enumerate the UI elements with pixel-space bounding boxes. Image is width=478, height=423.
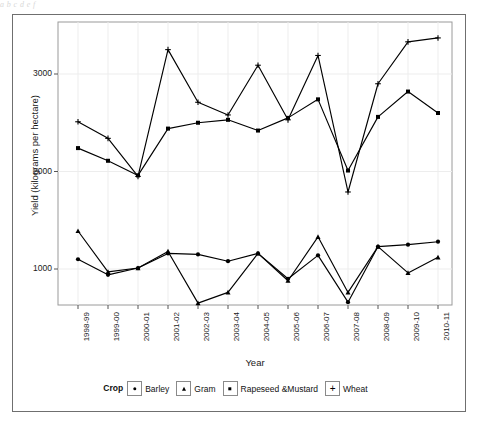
data-point-square xyxy=(76,146,80,150)
data-point-square xyxy=(106,159,110,163)
y-axis-tick-label: 1000 xyxy=(18,263,52,273)
legend-marker-triangle xyxy=(176,381,191,396)
data-point-square xyxy=(376,115,380,119)
x-axis-tick-label: 2008-09 xyxy=(382,312,391,341)
x-axis-tick-label: 2005-06 xyxy=(292,312,301,341)
data-point-circle xyxy=(226,259,230,263)
data-point-circle xyxy=(316,253,320,257)
data-point-square xyxy=(346,169,350,173)
x-axis-tick-label: 2002-03 xyxy=(202,312,211,341)
data-point-circle xyxy=(406,243,410,247)
x-axis-tick-label: 2009-10 xyxy=(412,312,421,341)
chart-legend: CropBarleyGramRapeseed &MustardWheat xyxy=(0,381,478,396)
data-point-circle xyxy=(76,257,80,261)
x-axis-tick-label: 1999-00 xyxy=(112,312,121,341)
data-point-square xyxy=(166,127,170,131)
data-point-square xyxy=(436,111,440,115)
y-axis-tick-label: 3000 xyxy=(18,68,52,78)
data-point-circle xyxy=(196,252,200,256)
legend-marker-plus xyxy=(325,381,340,396)
data-point-circle xyxy=(346,300,350,304)
legend-marker-square xyxy=(223,381,238,396)
x-axis-tick-label: 2004-05 xyxy=(262,312,271,341)
legend-marker-circle xyxy=(127,381,142,396)
data-point-square xyxy=(196,121,200,125)
legend-label: Barley xyxy=(145,384,169,394)
x-axis-tick-label: 2007-08 xyxy=(352,312,361,341)
x-axis-tick-label: 2006-07 xyxy=(322,312,331,341)
x-axis-tick-label: 2001-02 xyxy=(172,312,181,341)
data-point-square xyxy=(256,129,260,133)
x-axis-tick-label: 2010-11 xyxy=(442,312,451,341)
data-point-circle xyxy=(436,240,440,244)
plot-panel-border xyxy=(58,22,452,305)
data-point-square xyxy=(316,97,320,101)
legend-label: Wheat xyxy=(343,384,368,394)
x-axis-tick-label: 2003-04 xyxy=(232,312,241,341)
legend-label: Rapeseed &Mustard xyxy=(241,384,319,394)
y-axis-tick-label: 2000 xyxy=(18,166,52,176)
line-chart: Yield (kilograms per hectare) Year 10002… xyxy=(0,0,478,423)
x-axis-tick-label: 1998-99 xyxy=(82,312,91,341)
legend-label: Gram xyxy=(194,384,215,394)
data-point-square xyxy=(226,118,230,122)
x-axis-title: Year xyxy=(58,357,452,368)
x-axis-tick-label: 2000-01 xyxy=(142,312,151,341)
legend-title: Crop xyxy=(103,383,123,393)
data-point-square xyxy=(406,90,410,94)
